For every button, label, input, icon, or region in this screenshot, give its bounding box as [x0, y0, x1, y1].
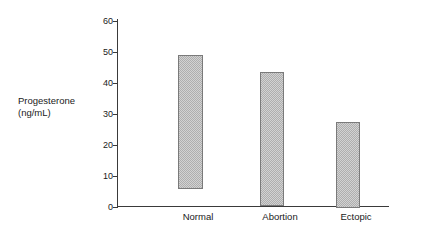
y-tick-label-50: 50	[103, 48, 113, 57]
y-tick-label-30: 30	[103, 110, 113, 119]
x-axis-label-ectopic: Ectopic	[308, 211, 404, 222]
y-tick-label-60: 60	[103, 17, 113, 26]
bar-abortion	[260, 72, 284, 206]
progesterone-bar-chart: Progesterone (ng/mL) 0 10 20 30 40 50 60…	[0, 0, 440, 236]
y-axis-tick-labels: 0 10 20 30 40 50 60	[0, 21, 113, 207]
bar-ectopic	[336, 122, 360, 208]
y-tick-label-0: 0	[108, 203, 113, 212]
bar-normal	[178, 55, 203, 189]
y-tick-0	[113, 207, 118, 208]
y-tick-label-40: 40	[103, 79, 113, 88]
y-tick-label-20: 20	[103, 141, 113, 150]
plot-area	[118, 21, 388, 207]
y-tick-label-10: 10	[103, 172, 113, 181]
